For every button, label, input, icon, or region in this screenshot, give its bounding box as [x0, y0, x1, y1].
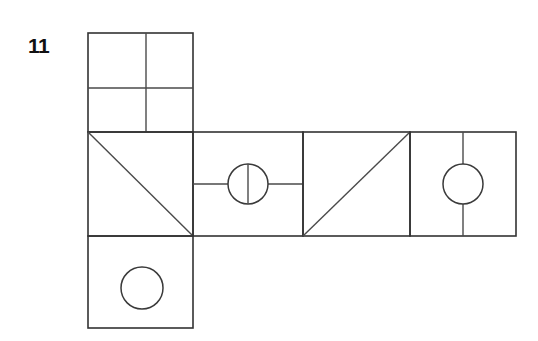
face-middle-1-diagonal: [88, 132, 193, 236]
face-middle-face-diagonal-up: [303, 132, 410, 236]
face-middle-face-circle-on-line: [410, 132, 516, 236]
problem-number-label: 11: [28, 34, 50, 57]
face-top-outline: [88, 33, 193, 132]
cube-net-figure: 11: [0, 0, 538, 341]
face-middle-4-circle: [443, 164, 483, 204]
face-middle-face-diagonal-down: [88, 132, 193, 236]
face-bottom-face-circle: [88, 236, 193, 328]
cube-net-svg: 11: [0, 0, 538, 341]
face-top-face-quadrants: [88, 33, 193, 132]
face-bottom-circle: [121, 267, 163, 309]
face-middle-face-circle-split: [193, 132, 303, 236]
face-middle-3-diagonal: [303, 132, 410, 236]
